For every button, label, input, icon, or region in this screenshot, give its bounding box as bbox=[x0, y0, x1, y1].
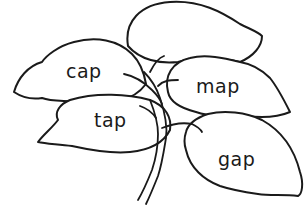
leaf-word-cap: cap bbox=[66, 62, 102, 81]
leaf-word-gap: gap bbox=[218, 150, 255, 169]
leaf-top-blank bbox=[127, 2, 262, 63]
leaf-plant-drawing bbox=[0, 0, 308, 209]
leaf-word-tap: tap bbox=[94, 111, 127, 130]
leaf-word-map: map bbox=[196, 77, 240, 96]
